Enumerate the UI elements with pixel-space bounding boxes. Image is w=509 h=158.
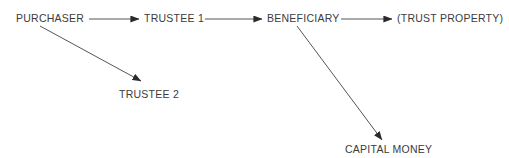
node-capital-money: CAPITAL MONEY: [345, 143, 432, 155]
node-trustee-2: TRUSTEE 2: [119, 88, 179, 100]
trust-flow-diagram: PURCHASER TRUSTEE 1 BENEFICIARY (TRUST P…: [0, 0, 509, 158]
node-beneficiary: BENEFICIARY: [267, 12, 340, 24]
edge-purchaser-to-trustee-2: [40, 26, 141, 81]
node-purchaser: PURCHASER: [16, 12, 84, 24]
node-trust-property: (TRUST PROPERTY): [397, 12, 503, 24]
node-trustee-1: TRUSTEE 1: [144, 12, 204, 24]
edge-beneficiary-to-capital-money: [297, 26, 382, 140]
